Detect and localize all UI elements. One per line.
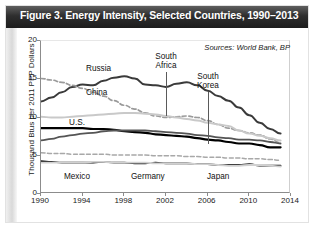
y-tick-20: 20	[17, 35, 37, 44]
y-tick-mark-20	[37, 40, 40, 41]
series-label-south-africa-line2: Africa	[146, 61, 186, 70]
y-tick-mark-5	[37, 155, 40, 156]
x-tick-mark-1994	[82, 193, 83, 196]
x-tick-1994: 1994	[62, 196, 102, 205]
x-tick-1998: 1998	[103, 196, 143, 205]
series-label-mexico: Mexico	[64, 172, 90, 181]
y-axis-label: Thousand Btus per 2011 PPP Dollars	[27, 25, 36, 195]
x-tick-2010: 2010	[228, 196, 268, 205]
x-tick-2002: 2002	[145, 196, 185, 205]
series-label-us: U.S.	[69, 118, 85, 127]
x-tick-2006: 2006	[187, 196, 227, 205]
x-tick-mark-2014	[290, 193, 291, 196]
y-tick-5: 5	[17, 150, 37, 159]
leader-line-south-africa	[166, 72, 167, 116]
series-label-russia: Russia	[86, 64, 111, 73]
y-tick-10: 10	[17, 112, 37, 121]
sources-note: Sources: World Bank, BP	[204, 43, 290, 52]
y-tick-15: 15	[17, 73, 37, 82]
leader-line-south-korea	[208, 92, 209, 144]
x-tick-1990: 1990	[20, 196, 60, 205]
y-tick-mark-10	[37, 117, 40, 118]
series-label-south-korea-line1: South	[188, 72, 228, 81]
x-tick-2014: 2014	[270, 196, 310, 205]
figure-panel: Figure 3. Energy Intensity, Selected Cou…	[0, 0, 314, 228]
figure-title: Figure 3. Energy Intensity, Selected Cou…	[20, 9, 298, 21]
left-gradient-strip	[6, 28, 17, 222]
series-label-south-korea-line2: Korea	[188, 81, 228, 90]
series-label-china: China	[86, 88, 107, 97]
x-tick-mark-1998	[123, 193, 124, 196]
y-tick-mark-15	[37, 78, 40, 79]
x-tick-mark-2010	[248, 193, 249, 196]
series-line-mexico	[41, 153, 281, 161]
series-label-south-africa-line1: South	[146, 52, 186, 61]
series-label-germany: Germany	[131, 172, 165, 181]
x-tick-mark-2006	[207, 193, 208, 196]
series-label-japan: Japan	[207, 172, 229, 181]
x-tick-mark-2002	[165, 193, 166, 196]
x-tick-mark-1990	[40, 193, 41, 196]
figure-title-bar: Figure 3. Energy Intensity, Selected Cou…	[6, 6, 308, 28]
